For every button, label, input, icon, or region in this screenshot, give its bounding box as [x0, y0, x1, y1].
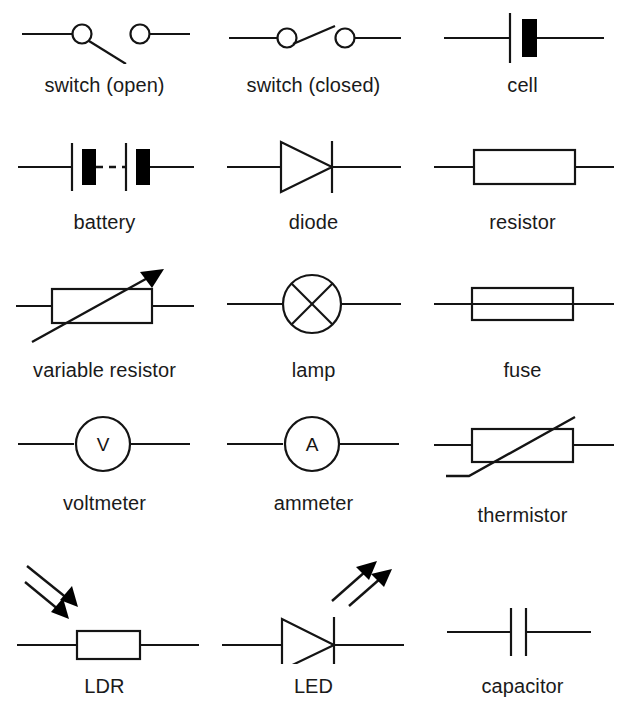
variable-resistor-icon	[10, 258, 200, 350]
symbol-label: switch (closed)	[247, 75, 381, 95]
symbol-cell-ldr: LDR	[0, 540, 209, 710]
symbol-label: ammeter	[274, 493, 354, 513]
cell-icon	[428, 8, 618, 64]
symbol-label: diode	[289, 212, 338, 232]
battery-icon	[10, 136, 200, 198]
lamp-icon	[219, 258, 409, 350]
symbol-label: lamp	[292, 360, 336, 380]
diode-icon	[219, 136, 409, 198]
capacitor-icon	[423, 544, 623, 664]
ammeter-letter: A	[305, 434, 318, 455]
symbol-label: resistor	[489, 212, 555, 232]
symbol-cell-fuse: fuse	[418, 250, 627, 395]
symbol-cell-thermistor: thermistor	[418, 395, 627, 540]
symbol-cell-battery: battery	[0, 120, 209, 250]
switch-open-icon	[10, 8, 200, 64]
symbol-cell-variable-resistor: variable resistor	[0, 250, 209, 395]
ldr-icon	[5, 544, 205, 664]
resistor-icon	[428, 136, 618, 198]
symbol-cell-led: LED	[209, 540, 418, 710]
symbol-label: fuse	[503, 360, 541, 380]
circuit-symbols-sheet: switch (open) switch (closed) cell	[0, 0, 627, 710]
symbol-cell-lamp: lamp	[209, 250, 418, 395]
thermistor-icon	[428, 407, 618, 493]
symbol-cell-switch-open: switch (open)	[0, 0, 209, 120]
symbol-cell-voltmeter: V voltmeter	[0, 395, 209, 540]
symbol-grid: switch (open) switch (closed) cell	[0, 0, 627, 710]
symbol-label: cell	[507, 75, 537, 95]
symbol-label: LDR	[84, 676, 124, 696]
switch-closed-icon	[219, 8, 409, 64]
symbol-label: variable resistor	[33, 360, 176, 380]
symbol-label: capacitor	[481, 676, 563, 696]
symbol-cell-resistor: resistor	[418, 120, 627, 250]
symbol-cell-diode: diode	[209, 120, 418, 250]
symbol-label: switch (open)	[44, 75, 164, 95]
symbol-cell-ammeter: A ammeter	[209, 395, 418, 540]
symbol-cell-cell: cell	[418, 0, 627, 120]
symbol-label: battery	[74, 212, 136, 232]
led-icon	[214, 544, 414, 664]
fuse-icon	[428, 258, 618, 350]
voltmeter-letter: V	[96, 434, 109, 455]
symbol-label: voltmeter	[63, 493, 146, 513]
ammeter-icon: A	[219, 407, 409, 481]
voltmeter-icon: V	[10, 407, 200, 481]
symbol-label: thermistor	[478, 505, 568, 525]
symbol-cell-switch-closed: switch (closed)	[209, 0, 418, 120]
symbol-label: LED	[294, 676, 333, 696]
symbol-cell-capacitor: capacitor	[418, 540, 627, 710]
